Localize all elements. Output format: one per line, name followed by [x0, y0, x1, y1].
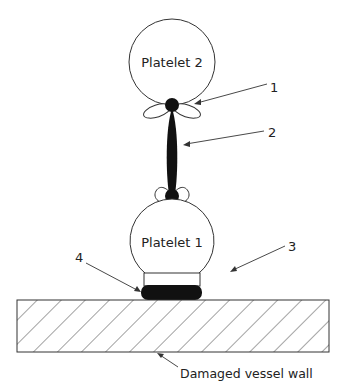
platelet-1: Platelet 1	[130, 199, 214, 274]
vessel-wall-label: Damaged vessel wall	[180, 366, 313, 381]
vessel-wall	[17, 300, 329, 352]
platelet-2-label: Platelet 2	[141, 55, 203, 70]
receptor-rectangle	[144, 273, 200, 286]
platelet-1-label: Platelet 1	[141, 235, 203, 250]
callout-2: 2	[268, 125, 276, 140]
platelet-2: Platelet 2	[129, 19, 215, 105]
callout-1: 1	[270, 80, 278, 95]
adhesive-pad	[141, 285, 202, 300]
platelet-diagram: Platelet 2 Platelet 1	[0, 0, 341, 391]
callout-3: 3	[288, 239, 296, 254]
callout-4: 4	[75, 250, 83, 265]
